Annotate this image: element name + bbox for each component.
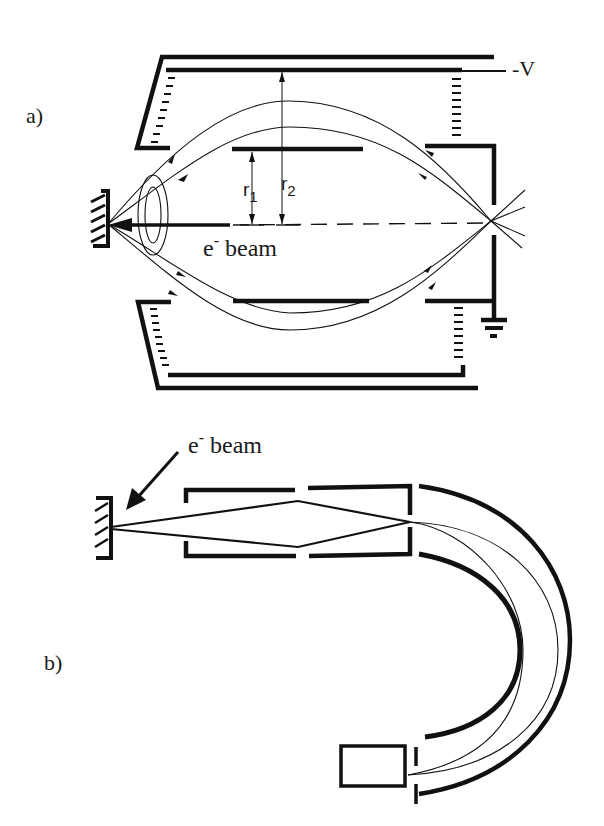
ground-icon — [481, 320, 507, 336]
e-beam-label-a: e- beam — [203, 232, 277, 261]
resistor-chain-top-right — [452, 79, 461, 135]
sample-target-b — [95, 498, 111, 558]
exit-aperture-bottom — [425, 235, 494, 318]
e-beam-label-b: e- beam — [188, 429, 262, 458]
resistor-chain-bottom-right — [454, 308, 463, 357]
trajectory-arrows — [168, 150, 436, 296]
panel-a: a) -V — [26, 56, 535, 388]
sample-target-a — [91, 191, 108, 246]
analyzer-inner-hemisphere — [419, 554, 520, 737]
entrance-ring-inner — [145, 187, 161, 243]
beam-path-lens — [111, 501, 410, 547]
lens-box — [186, 486, 410, 556]
panel-b-label: b) — [44, 650, 62, 675]
panel-a-label: a) — [26, 103, 43, 128]
trajectory-outer-top — [108, 101, 491, 224]
e-beam-arrow-a — [108, 218, 230, 232]
inner-electrode-bottom — [168, 365, 463, 375]
radius-1-label: r1 — [243, 179, 258, 205]
detector-box — [341, 746, 405, 786]
e-beam-arrow-b — [126, 452, 178, 510]
panel-b: b) e- beam — [44, 429, 570, 804]
exit-aperture-top — [425, 146, 494, 205]
optical-axis — [233, 223, 491, 225]
diagram-canvas: a) -V — [0, 0, 604, 826]
radius-2-label: r2 — [281, 173, 296, 199]
voltage-label: -V — [512, 56, 535, 81]
trajectory-inner-top — [108, 127, 491, 224]
analyzer-outer-hemisphere — [419, 486, 570, 794]
